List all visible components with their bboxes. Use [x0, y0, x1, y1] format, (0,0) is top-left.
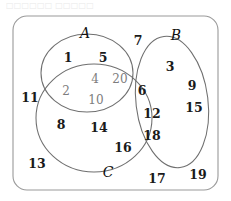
venn-element: 19 [189, 167, 206, 182]
set-label-b: B [171, 27, 181, 43]
venn-element: 13 [28, 156, 45, 171]
venn-element: 6 [138, 83, 147, 98]
venn-element: 5 [99, 50, 108, 65]
venn-element: 20 [112, 72, 127, 86]
venn-element: 3 [166, 59, 175, 74]
venn-diagram-figure: □□□□□□ □□□□□ A B C 1 5 7 3 9 15 4 20 2 1… [0, 0, 231, 201]
venn-element: 1 [64, 50, 73, 65]
venn-element: 2 [62, 84, 70, 98]
venn-element: 8 [57, 117, 66, 132]
venn-element: 7 [134, 33, 143, 48]
venn-element: 18 [143, 128, 160, 143]
set-label-c: C [103, 164, 114, 180]
venn-element: 14 [90, 120, 107, 135]
venn-element: 11 [21, 90, 38, 105]
venn-element: 17 [148, 171, 165, 186]
set-label-a: A [80, 25, 90, 41]
venn-element: 12 [143, 106, 160, 121]
venn-element: 16 [114, 140, 131, 155]
venn-element: 15 [185, 100, 202, 115]
venn-element: 9 [188, 78, 197, 93]
venn-element: 4 [91, 72, 99, 86]
venn-element: 10 [88, 93, 103, 107]
